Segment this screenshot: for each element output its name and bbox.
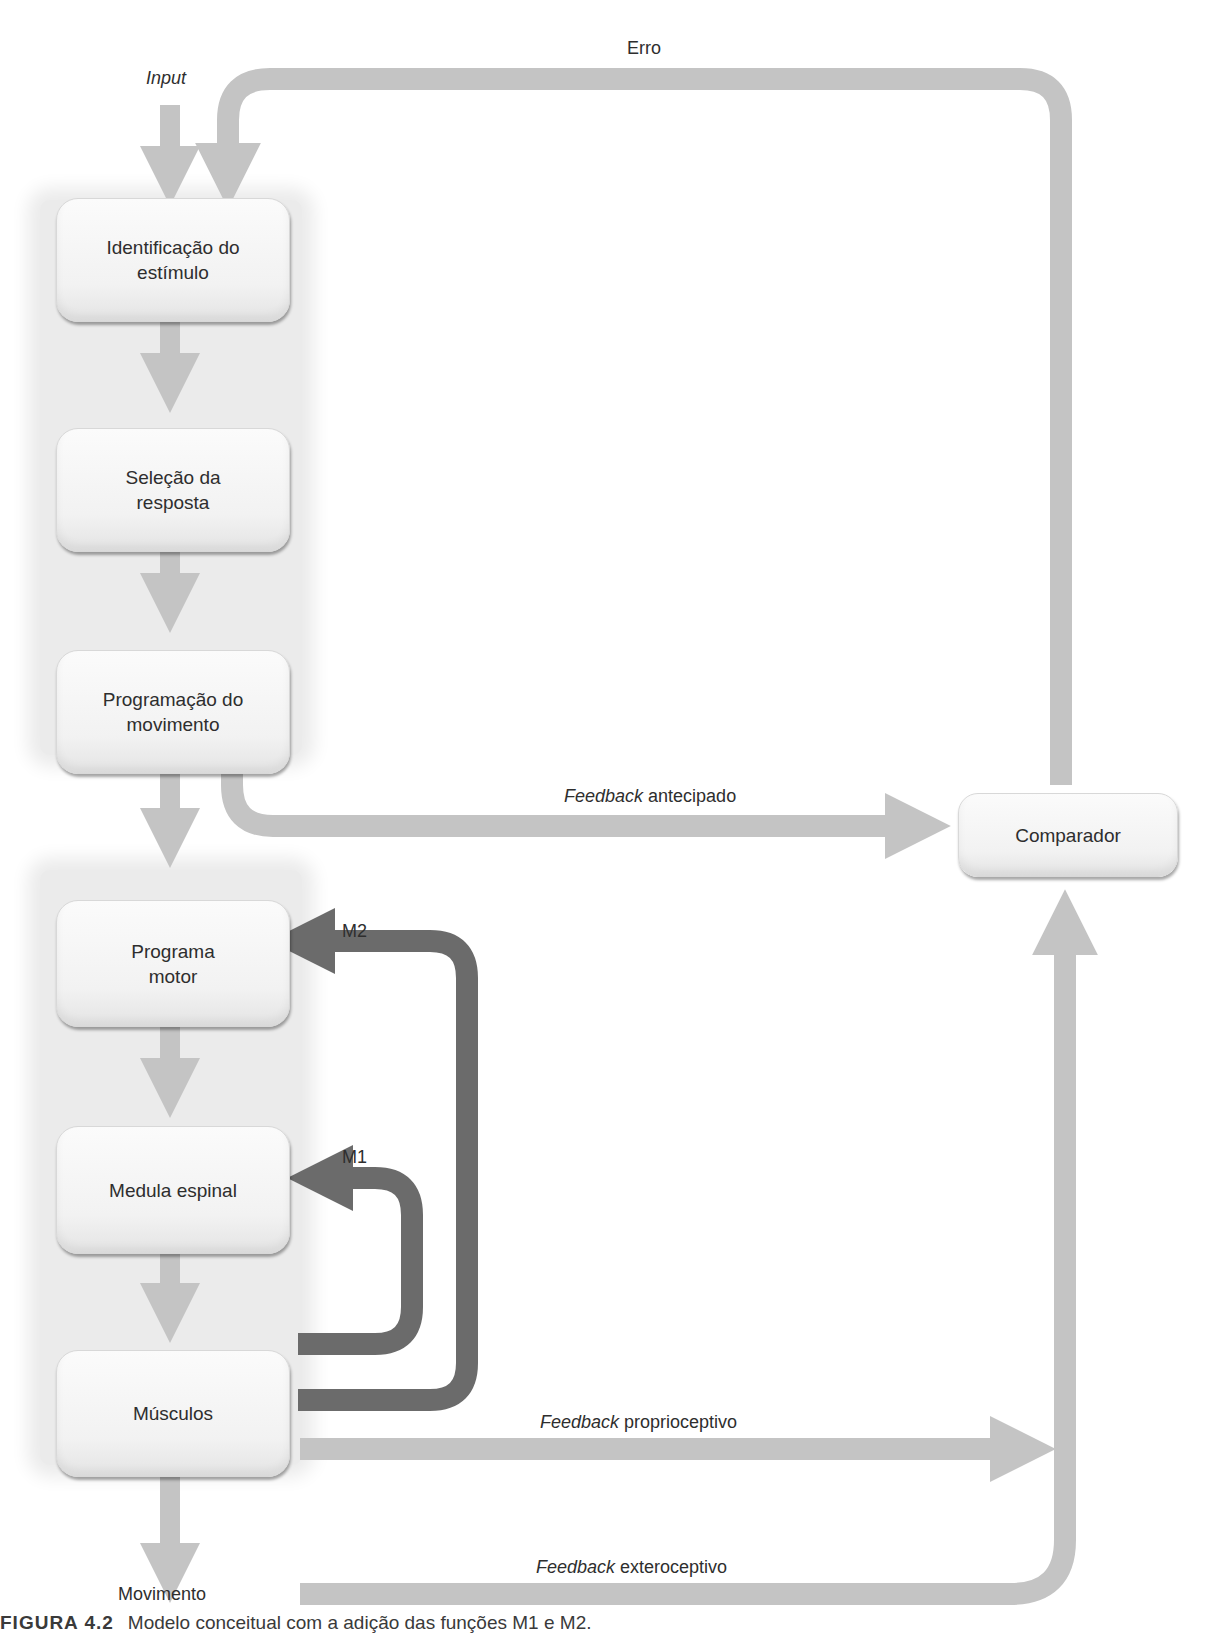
motor-program-box: Programamotor xyxy=(56,900,290,1027)
feedback-antecipado-label: Feedback antecipado xyxy=(564,786,736,807)
muscles-box: Músculos xyxy=(56,1350,290,1477)
box-line: motor xyxy=(149,966,198,987)
movement-output-label: Movimento xyxy=(118,1584,206,1605)
box-line: Medula espinal xyxy=(109,1178,237,1203)
input-label: Input xyxy=(146,68,186,89)
stimulus-identification-box: Identificação doestímulo xyxy=(56,198,290,322)
box-line: Programa xyxy=(131,941,214,962)
caption-text: Modelo conceitual com a adição das funçõ… xyxy=(128,1612,592,1633)
m2-label: M2 xyxy=(342,921,367,942)
caption-prefix: FIGURA 4.2 xyxy=(0,1612,114,1633)
box-line: Seleção da xyxy=(125,467,220,488)
box-line: estímulo xyxy=(137,262,209,283)
movement-programming-box: Programação domovimento xyxy=(56,650,290,774)
feedback-proprioceptivo-label: Feedback proprioceptivo xyxy=(540,1412,737,1433)
box-line: Programação do xyxy=(103,689,243,710)
comparator-label: Comparador xyxy=(1015,823,1121,848)
box-line: Músculos xyxy=(133,1401,213,1426)
box-line: movimento xyxy=(127,714,220,735)
box-line: resposta xyxy=(137,492,210,513)
spinal-cord-box: Medula espinal xyxy=(56,1126,290,1254)
comparator-box: Comparador xyxy=(958,793,1178,877)
m1-loop-arrow xyxy=(298,1178,412,1344)
error-label: Erro xyxy=(627,38,661,59)
feedback-exteroceptivo-label: Feedback exteroceptivo xyxy=(536,1557,727,1578)
figure-caption: FIGURA 4.2Modelo conceitual com a adição… xyxy=(0,1612,591,1634)
error-loop-arrow xyxy=(228,79,1074,788)
box-line: Identificação do xyxy=(106,237,239,258)
response-selection-box: Seleção daresposta xyxy=(56,428,290,552)
m1-label: M1 xyxy=(342,1147,367,1168)
